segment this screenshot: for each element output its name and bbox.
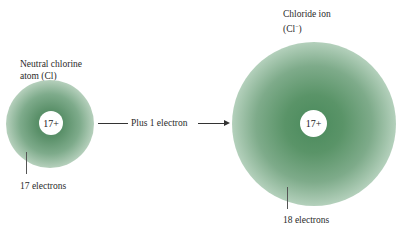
neutral-electron-count: 17 electrons [20, 180, 66, 192]
neutral-electron-pointer [26, 152, 27, 174]
arrowhead-icon [224, 120, 230, 126]
arrow-line-left [98, 123, 128, 124]
ion-nucleus-charge: 17+ [306, 118, 322, 129]
neutral-nucleus: 17+ [39, 111, 63, 135]
neutral-atom-title: Neutral chlorine atom (Cl) [20, 58, 82, 82]
transition-label: Plus 1 electron [131, 117, 187, 129]
ion-nucleus: 17+ [300, 110, 327, 137]
ion-electron-pointer [287, 187, 288, 209]
ion-title-line1: Chloride ion [283, 8, 331, 20]
ion-title-line2: (Cl−) [283, 20, 331, 35]
neutral-atom-title-line1: Neutral chlorine [20, 58, 82, 70]
neutral-nucleus-charge: 17+ [43, 118, 59, 129]
ion-title: Chloride ion (Cl−) [283, 8, 331, 35]
arrow-line-right [198, 123, 224, 124]
ion-electron-count: 18 electrons [283, 214, 329, 226]
